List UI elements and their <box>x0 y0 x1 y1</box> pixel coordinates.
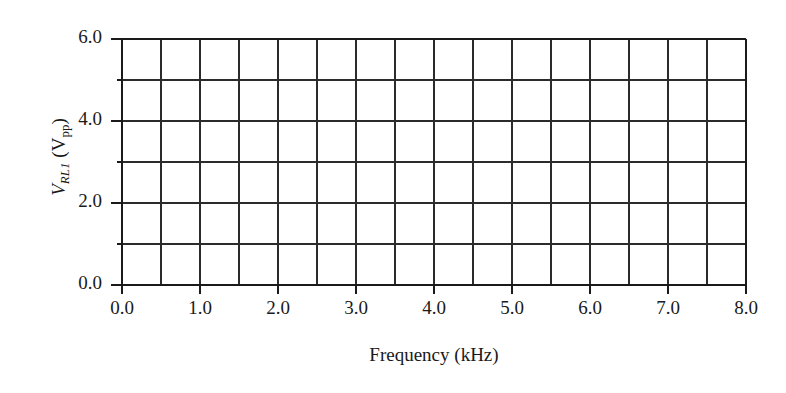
x-axis-tick-label: 3.0 <box>326 297 386 319</box>
grid-group <box>122 39 746 285</box>
plot-area <box>0 0 786 393</box>
x-axis-tick-label: 8.0 <box>716 297 776 319</box>
graph-figure: VRL1 (Vpp) Frequency (kHz) 0.01.02.03.04… <box>0 0 786 393</box>
tick-marks-group <box>111 39 746 294</box>
y-axis-tick-label: 2.0 <box>38 190 102 212</box>
x-axis-tick-label: 1.0 <box>170 297 230 319</box>
x-axis-tick-label: 6.0 <box>560 297 620 319</box>
y-axis-tick-label: 6.0 <box>38 26 102 48</box>
x-axis-tick-label: 4.0 <box>404 297 464 319</box>
x-axis-tick-label: 0.0 <box>92 297 152 319</box>
x-axis-tick-label: 5.0 <box>482 297 542 319</box>
y-axis-tick-label: 0.0 <box>38 272 102 294</box>
x-axis-tick-label: 7.0 <box>638 297 698 319</box>
y-axis-tick-label: 4.0 <box>38 108 102 130</box>
x-axis-tick-label: 2.0 <box>248 297 308 319</box>
